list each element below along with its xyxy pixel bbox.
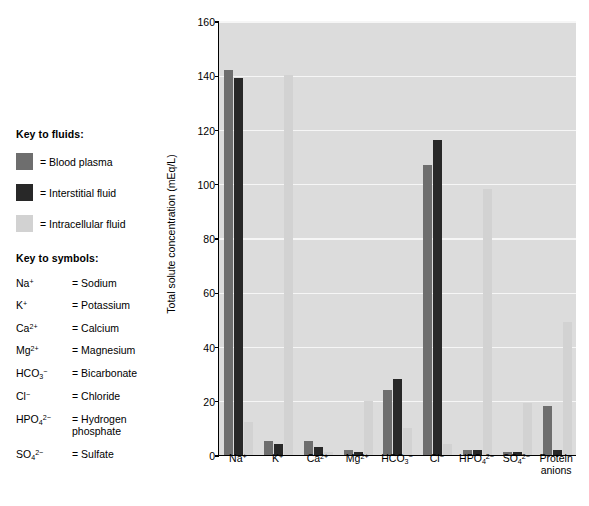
x-tick-label: Cl− (417, 452, 457, 464)
legend-label-interstitial-fluid: = Interstitial fluid (40, 187, 116, 199)
legend-swatch-intracellular-fluid (16, 215, 33, 232)
legend-item-intracellular-fluid: = Intracellular fluid (16, 215, 171, 232)
bar (433, 140, 442, 455)
bar (244, 422, 253, 455)
symbol-row: HCO3−= Bicarbonate (16, 367, 181, 381)
symbol-row: Na+= Sodium (16, 277, 181, 289)
x-tick-label: Proteinanions (536, 452, 576, 476)
legend-fluids: Key to fluids: = Blood plasma= Interstit… (16, 128, 171, 246)
bar-group (537, 322, 577, 455)
symbol-formula: Cl− (16, 390, 72, 402)
bar (543, 406, 552, 455)
symbol-row: HPO42−= Hydrogen phosphate (16, 413, 181, 438)
x-tick-label: Mg2+ (337, 452, 377, 464)
symbol-row: Ca2+= Calcium (16, 322, 181, 334)
bar-group (259, 75, 299, 455)
bar (234, 78, 243, 455)
legend-label-intracellular-fluid: = Intracellular fluid (40, 218, 126, 230)
symbol-name: = Chloride (72, 390, 120, 402)
bar-group (378, 379, 418, 455)
legend-symbols: Key to symbols: Na+= SodiumK+= Potassium… (16, 252, 181, 472)
legend-item-blood-plasma: = Blood plasma (16, 153, 171, 170)
bar (364, 401, 373, 455)
y-axis-title: Total solute concentration (mEq/L) (164, 14, 178, 454)
y-tick-label: 40 (203, 342, 215, 354)
plot-area: 020406080100120140160 (218, 22, 576, 456)
bar (523, 403, 532, 455)
legend-fluid-list: = Blood plasma= Interstitial fluid= Intr… (16, 153, 171, 232)
x-tick-label: HCO3− (377, 452, 417, 466)
symbol-name: = Magnesium (72, 344, 135, 356)
symbol-row: Mg2+= Magnesium (16, 344, 181, 356)
legend-symbol-list: Na+= SodiumK+= PotassiumCa2+= CalciumMg2… (16, 277, 181, 462)
x-tick-label: Ca2+ (298, 452, 338, 464)
bar (483, 189, 492, 455)
y-tick-label: 100 (197, 179, 215, 191)
symbol-row: SO42−= Sulfate (16, 448, 181, 462)
symbol-row: Cl−= Chloride (16, 390, 181, 402)
symbol-formula: SO42− (16, 448, 72, 462)
bar-chart: Total solute concentration (mEq/L) 02040… (186, 14, 578, 464)
symbol-formula: HPO42− (16, 413, 72, 427)
bar (224, 70, 233, 455)
y-tick-label: 120 (197, 125, 215, 137)
symbol-name: = Potassium (72, 299, 130, 311)
legend-label-blood-plasma: = Blood plasma (40, 156, 113, 168)
symbol-formula: Na+ (16, 277, 72, 289)
x-tick-label: K+ (258, 452, 298, 464)
y-tick-label: 140 (197, 70, 215, 82)
x-tick-label: HPO42− (457, 452, 497, 466)
symbol-name: = Sodium (72, 277, 117, 289)
y-tick-label: 80 (203, 233, 215, 245)
x-tick-label: Na+ (218, 452, 258, 464)
x-tick-label: SO42− (496, 452, 536, 466)
bar (403, 428, 412, 455)
symbol-row: K+= Potassium (16, 299, 181, 311)
bar (284, 75, 293, 455)
symbol-formula: K+ (16, 299, 72, 311)
bar (383, 390, 392, 455)
symbol-name: = Bicarbonate (72, 367, 137, 379)
symbol-name: = Sulfate (72, 448, 114, 460)
y-tick-mark (215, 21, 219, 22)
gridline (219, 21, 576, 22)
legend-swatch-blood-plasma (16, 153, 33, 170)
bar-group (497, 403, 537, 455)
symbol-formula: HCO3− (16, 367, 72, 381)
bar-group (219, 70, 259, 455)
legend-item-interstitial-fluid: = Interstitial fluid (16, 184, 171, 201)
legend-swatch-interstitial-fluid (16, 184, 33, 201)
y-tick-label: 0 (209, 450, 215, 462)
symbol-name: = Hydrogen phosphate (72, 413, 127, 438)
symbol-formula: Mg2+ (16, 344, 72, 356)
legend-fluids-title: Key to fluids: (16, 128, 171, 140)
y-tick-label: 20 (203, 396, 215, 408)
y-tick-label: 160 (197, 16, 215, 28)
legend-symbols-title: Key to symbols: (16, 252, 181, 264)
y-tick-label: 60 (203, 287, 215, 299)
symbol-formula: Ca2+ (16, 322, 72, 334)
bar (423, 165, 432, 455)
bar-group (458, 189, 498, 455)
bar (393, 379, 402, 455)
chart-page: Key to fluids: = Blood plasma= Interstit… (0, 0, 589, 506)
bar (563, 322, 572, 455)
bar-group (418, 140, 458, 455)
bar-group (338, 401, 378, 455)
symbol-name: = Calcium (72, 322, 119, 334)
